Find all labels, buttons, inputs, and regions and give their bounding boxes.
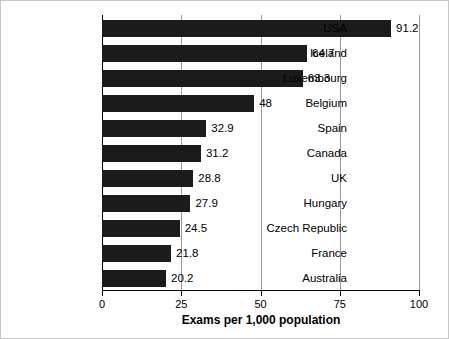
x-tick	[340, 291, 341, 296]
bar	[102, 145, 201, 162]
bar-value-label: 32.9	[211, 116, 233, 141]
category-label: Australia	[251, 266, 347, 291]
x-tick	[261, 291, 262, 296]
bar-value-label: 28.8	[198, 166, 220, 191]
category-label: Spain	[251, 116, 347, 141]
gridline	[419, 15, 420, 290]
x-tick	[102, 291, 103, 296]
x-tick	[419, 291, 420, 296]
bar	[102, 20, 391, 37]
x-tick-label: 0	[82, 298, 122, 310]
x-tick-label: 100	[399, 298, 439, 310]
category-label: Czech Republic	[251, 216, 347, 241]
bar	[102, 170, 193, 187]
bar	[102, 95, 254, 112]
bar-value-label: 21.8	[176, 241, 198, 266]
bar-value-label: 20.2	[171, 266, 193, 291]
bar	[102, 120, 206, 137]
category-label: Hungary	[251, 191, 347, 216]
bar-value-label: 91.2	[396, 16, 418, 41]
bar-value-label: 27.9	[195, 191, 217, 216]
category-label: Iceland	[251, 41, 347, 66]
bar	[102, 245, 171, 262]
x-tick-label: 25	[161, 298, 201, 310]
category-label: France	[251, 241, 347, 266]
category-label: Belgium	[251, 91, 347, 116]
category-label: USA	[251, 16, 347, 41]
x-tick-label: 50	[241, 298, 281, 310]
bar-value-label: 31.2	[206, 141, 228, 166]
category-label: UK	[251, 166, 347, 191]
bar	[102, 220, 180, 237]
x-tick	[181, 291, 182, 296]
category-label: Canada	[251, 141, 347, 166]
bar-value-label: 24.5	[185, 216, 207, 241]
bar-chart: 0255075100 91.2USA64.7Iceland63.3Luxembo…	[0, 0, 449, 339]
x-axis-title: Exams per 1,000 population	[102, 313, 420, 327]
bar	[102, 195, 190, 212]
category-label: Luxembourg	[251, 66, 347, 91]
bar	[102, 270, 166, 287]
x-tick-label: 75	[320, 298, 360, 310]
